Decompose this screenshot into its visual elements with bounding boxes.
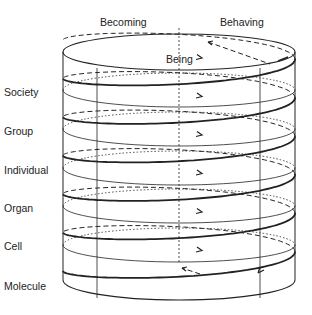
dashed-arrow-top <box>208 42 270 64</box>
arrowhead-icon <box>196 247 202 252</box>
level-label-society: Society <box>4 86 38 98</box>
level-label-individual: Individual <box>4 164 48 176</box>
arrowhead-icon <box>196 209 202 214</box>
level-label-molecule: Molecule <box>4 280 46 292</box>
level-label-cell: Cell <box>4 240 22 252</box>
arrowhead-icon <box>196 55 202 60</box>
level-label-group: Group <box>4 125 33 137</box>
arrowhead-icon <box>196 93 202 98</box>
arrowhead-icon <box>196 170 202 175</box>
label-behaving: Behaving <box>220 16 264 28</box>
helix-cylinder-diagram <box>0 0 312 315</box>
arrowhead-icon <box>196 132 202 137</box>
dashed-arrow-bottom <box>182 268 200 274</box>
label-becoming: Becoming <box>100 16 147 28</box>
level-label-organ: Organ <box>4 202 33 214</box>
label-being: Being <box>166 53 193 65</box>
